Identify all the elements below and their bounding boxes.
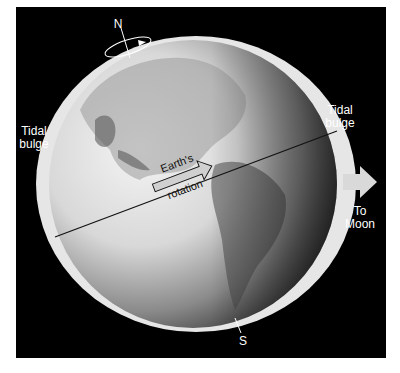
south-label: S — [236, 335, 250, 348]
tidal-bulge-left-line2: bulge — [12, 138, 56, 151]
diagram: N S Tidal bulge Tidal bulge To Moon Eart… — [0, 0, 400, 373]
to-moon-line2: Moon — [338, 218, 382, 231]
to-moon-label: To Moon — [338, 205, 382, 231]
tidal-bulge-right-line2: bulge — [315, 117, 365, 130]
tidal-bulge-left-label: Tidal bulge — [12, 125, 56, 151]
tidal-bulge-right-label: Tidal bulge — [315, 104, 365, 130]
north-label: N — [111, 18, 125, 31]
